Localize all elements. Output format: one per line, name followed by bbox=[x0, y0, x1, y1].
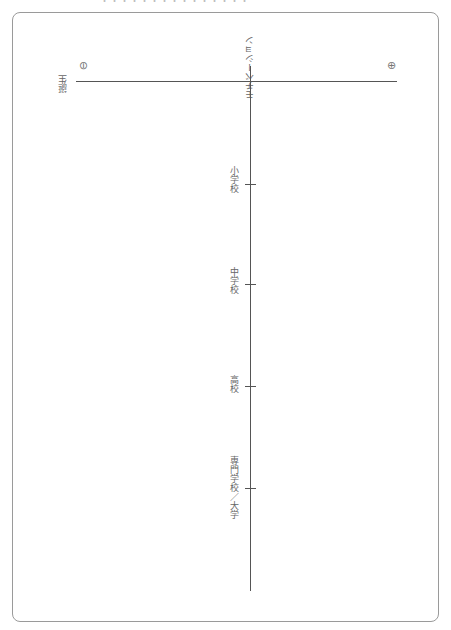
tick-college bbox=[245, 488, 256, 489]
vertical-time-axis bbox=[250, 66, 251, 591]
horizontal-axis bbox=[76, 81, 397, 82]
top-cut-text-strip: ・・・・・・・・・・・・・・・ bbox=[0, 0, 451, 6]
start-label-birth: 誕生 bbox=[57, 75, 67, 93]
milestone-label-junior-high: 中学校 bbox=[229, 267, 239, 294]
tick-elementary bbox=[245, 184, 256, 185]
motivation-graph-card bbox=[12, 12, 439, 622]
top-cut-text: ・・・・・・・・・・・・・・・ bbox=[100, 0, 250, 6]
axis-title-motivation: モチベーション bbox=[244, 36, 254, 99]
plus-icon: ⊕ bbox=[387, 60, 396, 71]
milestone-label-high-school: 高校 bbox=[229, 375, 239, 393]
milestone-label-elementary: 小学校 bbox=[229, 166, 239, 193]
milestone-label-college: 専門学校／大学 bbox=[229, 456, 239, 519]
minus-icon: ⊖ bbox=[78, 61, 89, 70]
tick-high-school bbox=[245, 386, 256, 387]
tick-junior-high bbox=[245, 284, 256, 285]
